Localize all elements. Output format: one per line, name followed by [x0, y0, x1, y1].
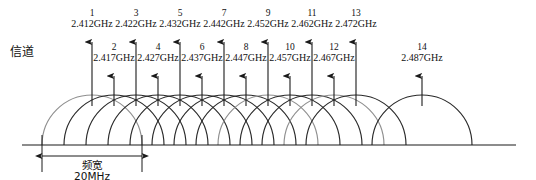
channel-number-1: 1: [72, 8, 112, 18]
channel-number-2: 2: [94, 42, 134, 52]
channel-number-4: 4: [138, 42, 178, 52]
channel-number-7: 7: [204, 8, 244, 18]
channel-freq-13: 2.472GHz: [326, 19, 386, 30]
channel-number-8: 8: [226, 42, 266, 52]
channel-number-6: 6: [182, 42, 222, 52]
channel-number-12: 12: [314, 42, 354, 52]
channel-number-10: 10: [270, 42, 310, 52]
channel-number-14: 14: [402, 42, 442, 52]
bandwidth-value: 20MHz: [57, 170, 127, 180]
channel-arcs: [42, 95, 472, 145]
channel-number-11: 11: [292, 8, 332, 18]
axis-label-channel: 信道: [10, 46, 34, 59]
channel-number-3: 3: [116, 8, 156, 18]
channel-freq-14: 2.487GHz: [392, 53, 452, 64]
channel-number-13: 13: [336, 8, 376, 18]
channel-number-5: 5: [160, 8, 200, 18]
channel-allocation-diagram: 信道 1 2.412GHz 3 2.422GHz 5 2.432GHz 7 2.…: [0, 0, 536, 180]
channel-number-9: 9: [248, 8, 288, 18]
channel-freq-12: 2.467GHz: [304, 53, 364, 64]
